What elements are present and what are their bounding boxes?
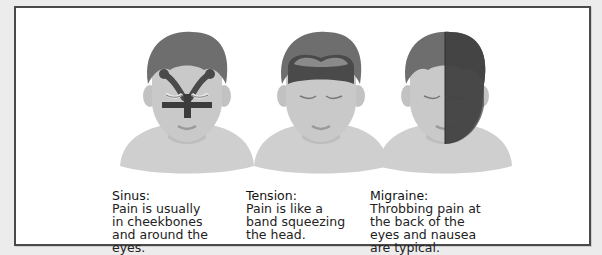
caption-line: the head. bbox=[246, 228, 386, 241]
caption-sinus: Sinus: Pain is usually in cheekbones and… bbox=[112, 189, 252, 254]
caption-migraine: Migraine: Throbbing pain at the back of … bbox=[370, 189, 510, 254]
sinus-head-illustration bbox=[112, 26, 262, 186]
caption-line: are typical. bbox=[370, 241, 510, 254]
caption-tension: Tension: Pain is like a band squeezing t… bbox=[246, 189, 386, 241]
caption-line: eyes. bbox=[112, 241, 252, 254]
diagram-frame: Sinus: Pain is usually in cheekbones and… bbox=[14, 6, 591, 246]
migraine-head-illustration bbox=[370, 26, 520, 186]
